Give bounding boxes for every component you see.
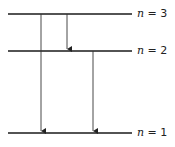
level-value: = 3 <box>144 7 167 20</box>
level-value: = 2 <box>144 44 167 57</box>
level-label-n3: n = 3 <box>137 8 167 20</box>
level-label-n1: n = 1 <box>137 127 167 139</box>
energy-level-diagram <box>0 0 175 147</box>
level-value: = 1 <box>144 126 167 139</box>
level-label-n2: n = 2 <box>137 45 167 57</box>
